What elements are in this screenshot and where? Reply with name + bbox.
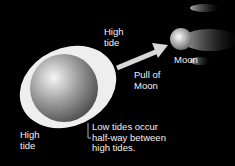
earth-icon: [30, 54, 98, 122]
label-pull-of-moon: Pull of Moon: [134, 70, 160, 91]
pull-arrow: [117, 43, 168, 68]
label-high-tide-top: High tide: [104, 27, 124, 48]
label-high-tide-bottom: High tide: [20, 130, 40, 151]
label-moon: Moon: [174, 55, 199, 66]
label-low-tides: Low tides occur half-way between high ti…: [92, 122, 166, 154]
moon-icon: [170, 28, 192, 50]
low-tide-bracket: [88, 123, 91, 138]
